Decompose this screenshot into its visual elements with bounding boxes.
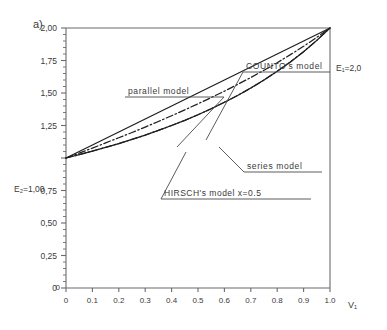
annotation-hirsch-model: HIRSCH's model x=0.5 bbox=[164, 188, 261, 198]
x-tick-label: 0.6 bbox=[219, 296, 231, 305]
origin-label: 0 bbox=[56, 283, 61, 292]
y-tick-label: 0,25 bbox=[40, 251, 57, 261]
x-tick-label: 0 bbox=[64, 296, 69, 305]
x-tick-label: 0.7 bbox=[245, 296, 257, 305]
x-tick-label: 0.5 bbox=[192, 296, 204, 305]
annotation-series-model: series model bbox=[247, 161, 302, 171]
x-tick-label: 0.9 bbox=[298, 296, 310, 305]
x-tick-label: 0.3 bbox=[140, 296, 152, 305]
x-tick-label: 0.4 bbox=[166, 296, 178, 305]
y-tick-label: 0,50 bbox=[40, 218, 57, 228]
figure-panel: a) 00,250,500,751,251,501,752,00 00.10.2… bbox=[0, 0, 387, 330]
figure-background bbox=[0, 0, 387, 330]
y-tick-label: 1,50 bbox=[40, 88, 57, 98]
y-tick-label: 2,00 bbox=[40, 23, 57, 33]
x-tick-label: 0.8 bbox=[272, 296, 284, 305]
label-e2-endpoint: E₂=1,00 bbox=[14, 184, 45, 194]
axis-label-x: V₁ bbox=[348, 300, 357, 310]
x-tick-label: 0.1 bbox=[87, 296, 99, 305]
x-tick-label: 1.0 bbox=[324, 296, 336, 305]
y-tick-label: 1,75 bbox=[40, 56, 57, 66]
label-e1-endpoint: E₁=2,0 bbox=[336, 63, 362, 73]
chart-svg: a) 00,250,500,751,251,501,752,00 00.10.2… bbox=[0, 0, 387, 330]
annotation-counto-model: COUNTO's model bbox=[246, 61, 322, 71]
annotation-parallel-model: parallel model bbox=[128, 86, 189, 96]
x-tick-label: 0.2 bbox=[113, 296, 125, 305]
y-tick-label: 1,25 bbox=[40, 121, 57, 131]
